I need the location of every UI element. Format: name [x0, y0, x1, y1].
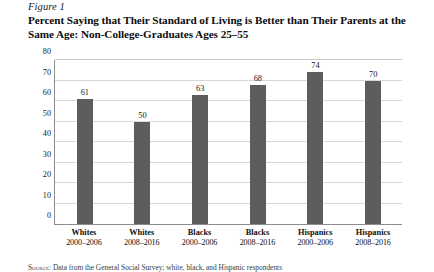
source-note-text: Data from the General Social Survey; whi… [53, 263, 282, 272]
figure-label: Figure 1 [28, 1, 65, 12]
x-axis-period: 2008–2016 [229, 238, 287, 248]
y-axis-tick-label: 40 [29, 130, 51, 138]
bar-slot: 61 [56, 60, 114, 224]
x-axis-period: 2000–2006 [286, 238, 344, 248]
y-axis-tick-label: 10 [29, 192, 51, 200]
y-axis-tick-label: 70 [29, 69, 51, 77]
bar-value-label: 68 [254, 74, 262, 83]
bar [192, 95, 208, 224]
x-axis-category-label: Hispanics2008–2016 [344, 228, 402, 247]
bar-slot: 70 [344, 60, 402, 224]
bar [307, 72, 323, 224]
x-axis-category-label: Blacks2008–2016 [229, 228, 287, 247]
bar-value-label: 74 [311, 61, 319, 70]
x-axis-category-label: Whites2000–2006 [55, 228, 113, 247]
y-axis-tick-label: 30 [29, 151, 51, 159]
figure-page: Figure 1 Percent Saying that Their Stand… [0, 0, 434, 272]
y-axis-tick-label: 60 [29, 89, 51, 97]
y-axis-tick-label: 0 [29, 212, 51, 220]
plot-area: 01020304050607080 615063687470 [54, 60, 402, 225]
bar-series: 615063687470 [56, 60, 402, 224]
x-axis-group-name: Hispanics [298, 228, 333, 237]
figure-title-line-2: Same Age: Non-College-Graduates Ages 25–… [28, 28, 424, 42]
x-axis-period: 2000–2006 [171, 238, 229, 248]
bar [250, 85, 266, 224]
x-axis-category-label: Hispanics2000–2006 [286, 228, 344, 247]
bar-value-label: 70 [369, 70, 377, 79]
bar-slot: 63 [171, 60, 229, 224]
figure-title-line-1: Percent Saying that Their Standard of Li… [28, 14, 406, 26]
y-axis-tick-label: 20 [29, 171, 51, 179]
x-axis-group-name: Whites [71, 228, 96, 237]
source-note-prefix: Source: [28, 263, 51, 272]
x-axis-labels: Whites2000–2006Whites2008–2016Blacks2000… [55, 228, 402, 252]
x-axis-period: 2008–2016 [113, 238, 171, 248]
bar [77, 99, 93, 224]
y-axis-tick-label: 50 [29, 110, 51, 118]
bar-slot: 50 [114, 60, 172, 224]
source-note: Source: Data from the General Social Sur… [28, 263, 428, 272]
x-axis-group-name: Blacks [246, 228, 270, 237]
bar-value-label: 50 [138, 111, 146, 120]
x-axis-period: 2000–2006 [55, 238, 113, 248]
figure-title: Percent Saying that Their Standard of Li… [28, 14, 424, 41]
bar-value-label: 61 [81, 88, 89, 97]
y-axis-tick-label: 80 [29, 48, 51, 56]
x-axis-category-label: Whites2008–2016 [113, 228, 171, 247]
bar-chart: 01020304050607080 615063687470 Whites200… [28, 54, 408, 250]
bar [365, 81, 381, 225]
bar [134, 122, 150, 225]
x-axis-group-name: Whites [129, 228, 154, 237]
bar-value-label: 63 [196, 84, 204, 93]
x-axis-group-name: Blacks [188, 228, 212, 237]
x-axis-group-name: Hispanics [356, 228, 391, 237]
x-axis-period: 2008–2016 [344, 238, 402, 248]
x-axis-category-label: Blacks2000–2006 [171, 228, 229, 247]
bar-slot: 68 [229, 60, 287, 224]
bar-slot: 74 [287, 60, 345, 224]
